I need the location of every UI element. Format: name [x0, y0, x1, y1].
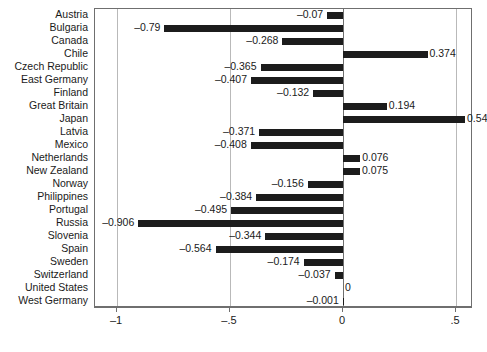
bar: [259, 129, 343, 136]
category-label: West Germany: [0, 295, 88, 306]
category-label: Finland: [0, 87, 88, 98]
bar-value-label: 0.374: [430, 48, 456, 59]
bar-value-label: –0.564: [179, 243, 211, 254]
category-label: Switzerland: [0, 269, 88, 280]
gridline: [117, 9, 118, 306]
category-label: Mexico: [0, 139, 88, 150]
bar-value-label: –0.174: [268, 256, 300, 267]
x-axis-tick: [116, 307, 117, 312]
x-axis-tick-label: –.5: [204, 314, 254, 326]
bar: [261, 64, 343, 71]
bar: [164, 25, 343, 32]
category-label: Czech Republic: [0, 61, 88, 72]
bar-value-label: –0.407: [215, 74, 247, 85]
category-label: Norway: [0, 178, 88, 189]
x-axis-tick: [455, 307, 456, 312]
x-axis-line: [94, 307, 472, 308]
category-label: United States: [0, 282, 88, 293]
bar-value-label: –0.037: [299, 269, 331, 280]
bar-value-label: 0.194: [389, 100, 415, 111]
category-label: Japan: [0, 113, 88, 124]
category-label: Sweden: [0, 256, 88, 267]
bar-value-label: 0.076: [362, 152, 388, 163]
bar: [256, 194, 343, 201]
bar-value-label: 0.54: [467, 113, 487, 124]
category-axis-labels: AustriaBulgariaCanadaChileCzech Republic…: [0, 8, 88, 307]
bar-value-label: –0.344: [229, 230, 261, 241]
bar-value-label: –0.408: [215, 139, 247, 150]
category-label: Latvia: [0, 126, 88, 137]
bar: [282, 38, 343, 45]
x-axis-tick-label: .5: [430, 314, 480, 326]
x-axis-tick-label: 0: [317, 314, 367, 326]
category-label: Canada: [0, 35, 88, 46]
bar-value-label: –0.001: [307, 295, 339, 306]
gridline: [230, 9, 231, 306]
category-label: Philippines: [0, 191, 88, 202]
x-axis-tick: [342, 307, 343, 312]
category-label: Spain: [0, 243, 88, 254]
bar: [343, 51, 428, 58]
bar-value-label: –0.365: [224, 61, 256, 72]
bar-value-label: 0: [345, 282, 351, 293]
bar-value-label: –0.07: [297, 9, 323, 20]
category-label: Bulgaria: [0, 22, 88, 33]
bar: [251, 142, 343, 149]
bar-value-label: –0.79: [134, 22, 160, 33]
bar: [343, 116, 465, 123]
category-label: Portugal: [0, 204, 88, 215]
bar: [308, 181, 343, 188]
bar-value-label: –0.495: [195, 204, 227, 215]
category-label: Austria: [0, 9, 88, 20]
gridline: [456, 9, 457, 306]
bar-value-label: –0.906: [102, 217, 134, 228]
category-label: Slovenia: [0, 230, 88, 241]
bar: [343, 298, 344, 305]
bar-chart: AustriaBulgariaCanadaChileCzech Republic…: [0, 0, 487, 352]
bar: [343, 103, 387, 110]
bar-value-label: –0.384: [220, 191, 252, 202]
bar: [231, 207, 343, 214]
category-label: Great Britain: [0, 100, 88, 111]
bar-value-label: –0.132: [277, 87, 309, 98]
category-label: Chile: [0, 48, 88, 59]
category-label: Russia: [0, 217, 88, 228]
bar-value-label: –0.156: [272, 178, 304, 189]
bar-value-label: 0.075: [362, 165, 388, 176]
bar-value-label: –0.371: [223, 126, 255, 137]
category-label: East Germany: [0, 74, 88, 85]
bar: [304, 259, 343, 266]
bar: [313, 90, 343, 97]
bar: [343, 168, 360, 175]
bar: [335, 272, 343, 279]
bar: [251, 77, 343, 84]
bar: [343, 155, 360, 162]
x-axis-tick: [229, 307, 230, 312]
bar: [327, 12, 343, 19]
bar: [216, 246, 343, 253]
x-axis-tick-label: –1: [91, 314, 141, 326]
bar: [138, 220, 343, 227]
bar: [265, 233, 343, 240]
category-label: Netherlands: [0, 152, 88, 163]
category-label: New Zealand: [0, 165, 88, 176]
bar-value-label: –0.268: [246, 35, 278, 46]
